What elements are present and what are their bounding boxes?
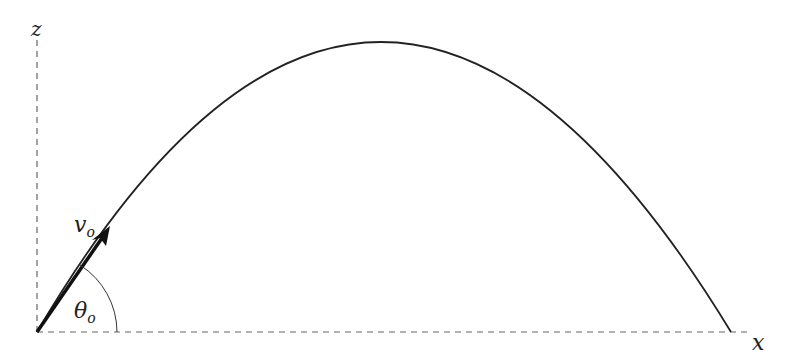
velocity-label: vo	[74, 212, 95, 240]
projectile-diagram: z x vo θo	[0, 0, 793, 364]
x-axis-label: x	[752, 330, 765, 355]
z-axis-label: z	[30, 17, 42, 41]
trajectory-curve	[37, 42, 731, 332]
angle-label: θo	[74, 298, 96, 326]
